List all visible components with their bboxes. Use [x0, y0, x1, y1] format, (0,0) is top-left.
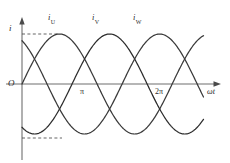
- y-axis-arrow: [19, 17, 24, 25]
- y-axis-label: i: [9, 24, 12, 33]
- x-axis: [6, 81, 221, 86]
- x-axis-label: ωt: [207, 88, 215, 96]
- waveform-figure: i O ωt π 2π iU iV iW: [0, 0, 230, 163]
- origin-label: O: [8, 79, 15, 88]
- curve-label-i-v: iV: [92, 13, 99, 24]
- curve-label-i-w-sub: W: [136, 19, 142, 25]
- x-tick-label-pi: π: [80, 88, 84, 96]
- waveform-svg: [0, 0, 230, 163]
- x-tick-label-2pi: 2π: [155, 88, 163, 96]
- y-axis: [19, 17, 24, 160]
- curve-label-i-u: iU: [48, 13, 55, 24]
- curve-label-i-v-sub: V: [95, 19, 99, 25]
- x-axis-arrow: [214, 81, 222, 86]
- curve-label-i-u-sub: U: [51, 19, 55, 25]
- curve-label-i-w: iW: [133, 13, 141, 24]
